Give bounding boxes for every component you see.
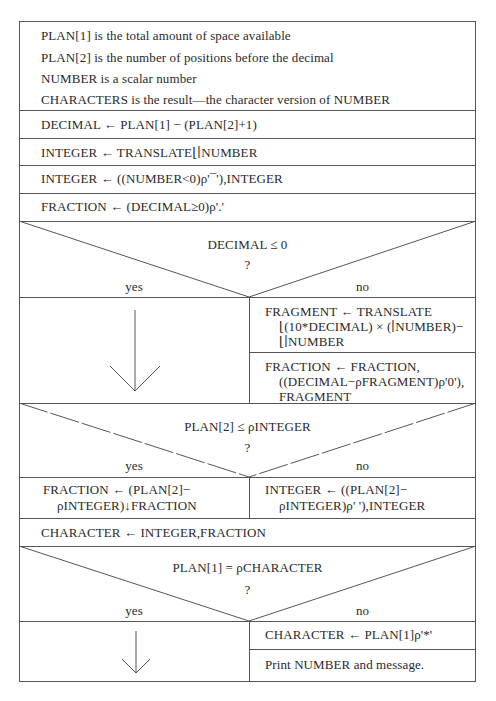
flowchart: PLAN[1] is the total amount of space ava… — [19, 21, 476, 681]
decision-diagonals — [19, 21, 476, 682]
arrow-down-icon — [122, 631, 150, 673]
arrow-down-icon — [110, 310, 160, 391]
